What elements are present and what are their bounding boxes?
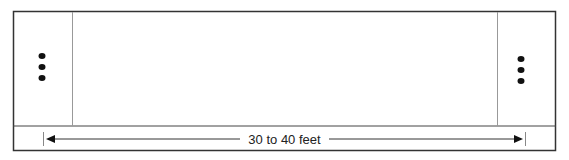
left-marker-dots xyxy=(39,53,46,81)
right-marker-dots xyxy=(518,56,525,84)
measurement-label-wrap: 30 to 40 feet xyxy=(0,132,569,147)
measurement-label: 30 to 40 feet xyxy=(240,132,328,147)
outer-boundary xyxy=(14,12,556,151)
